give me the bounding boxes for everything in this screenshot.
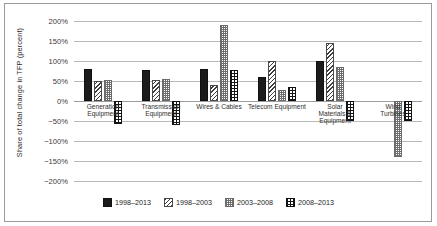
bar[interactable] [84,69,93,101]
bar[interactable] [200,69,209,101]
bar-group [374,21,413,181]
bar[interactable] [94,81,103,101]
legend-swatch-icon [164,198,173,207]
legend-item[interactable]: 2003–2008 [225,198,273,207]
bar[interactable] [316,61,325,101]
bar[interactable] [288,87,297,101]
legend-label: 2008–2013 [298,198,334,207]
plot-area [74,21,422,181]
y-axis-tick-label: −200% [28,177,68,186]
gridline [74,161,422,162]
y-axis-tick-label: 0% [28,97,68,106]
bar[interactable] [268,61,277,101]
bar[interactable] [326,43,335,101]
bar-group [84,21,123,181]
bar[interactable] [162,79,171,101]
bar[interactable] [336,67,345,101]
legend-item[interactable]: 1998–2013 [103,198,151,207]
legend-item[interactable]: 1998–2003 [164,198,212,207]
legend-label: 1998–2013 [115,198,151,207]
bar-group [200,21,239,181]
y-axis-tick-label: 150% [28,37,68,46]
bar[interactable] [142,70,151,101]
gridline [74,61,422,62]
legend-label: 2003–2008 [237,198,273,207]
bar[interactable] [230,70,239,101]
bar[interactable] [258,77,267,101]
y-axis-title: Share of total change in TFP (percent) [15,18,24,168]
chart-legend: 1998–20131998–20032003–20082008–2013 [0,198,437,207]
bar[interactable] [104,80,113,101]
bar[interactable] [278,90,287,101]
legend-swatch-icon [103,198,112,207]
y-axis-tick-label: 50% [28,77,68,86]
legend-swatch-icon [286,198,295,207]
gridline [74,181,422,182]
y-axis-tick-label: 200% [28,17,68,26]
gridline [74,141,422,142]
chart-container: Share of total change in TFP (percent) 2… [0,0,437,226]
gridline [74,81,422,82]
category-label: Wind Turbines [358,103,428,118]
bar-group [258,21,297,181]
y-axis-tick-label: −100% [28,137,68,146]
bar[interactable] [220,25,229,101]
y-axis-tick-label: −150% [28,157,68,166]
bar-group [142,21,181,181]
legend-label: 1998–2003 [176,198,212,207]
bar[interactable] [152,80,161,101]
y-axis-tick-label: −50% [28,117,68,126]
gridline [74,21,422,22]
legend-item[interactable]: 2008–2013 [286,198,334,207]
bar-group [316,21,355,181]
y-axis-tick-label: 100% [28,57,68,66]
legend-swatch-icon [225,198,234,207]
bar[interactable] [210,85,219,101]
gridline [74,41,422,42]
